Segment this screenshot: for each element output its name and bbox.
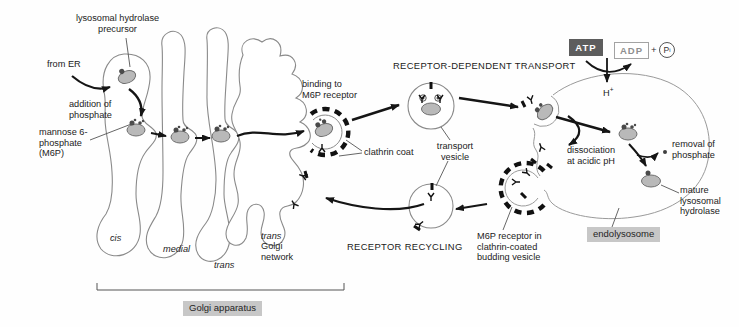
medial-cisterna-membrane: [146, 31, 197, 257]
arrow-vesicle-to-endolysosome: [459, 98, 518, 107]
receptor-icon: [527, 95, 535, 104]
label-medial: medial: [163, 244, 190, 255]
label-binding-m6p: binding to M6P receptor: [302, 79, 357, 100]
atp-badge: ATP: [569, 39, 603, 56]
plus-sign: +: [651, 44, 657, 55]
label-transport-vesicle: transport vesicle: [423, 141, 487, 162]
receptor-stub: [547, 164, 552, 168]
label-trans: trans: [214, 260, 234, 271]
arrow-atp-adp: [586, 61, 631, 72]
mature-hydrolase: [642, 171, 661, 188]
receptor-stub: [522, 101, 525, 107]
atp-label: ATP: [575, 42, 596, 53]
label-endolysosome: endolysosome: [587, 227, 660, 242]
golgi-bracket: [97, 283, 344, 290]
arrow-hydrolase-into-lumen: [556, 117, 610, 132]
label-cis: cis: [110, 233, 121, 244]
label-addition-phosphate: addition of phosphate: [69, 99, 112, 120]
arrow-bud-to-vesicle: [352, 105, 399, 120]
pi-subscript: i: [669, 47, 670, 53]
arrow-phosphate-removal: [637, 153, 658, 157]
proton-charge: +: [610, 86, 614, 93]
heading-receptor-recycling: RECEPTOR RECYCLING: [347, 242, 463, 253]
receptor-icon: [537, 142, 545, 152]
receptor-stub: [521, 193, 526, 198]
label-mature-hydrolase: mature lysosomal hydrolase: [680, 185, 721, 217]
adp-label: ADP: [620, 45, 643, 56]
label-lysosomal-precursor: lysosomal hydrolase precursor: [60, 13, 175, 34]
adp-badge: ADP: [614, 42, 649, 59]
label-trans-golgi-network: transGolgi network: [261, 220, 293, 262]
label-from-er: from ER: [47, 59, 81, 70]
endo-bud-membrane: [505, 170, 538, 206]
free-phosphate: [663, 150, 667, 154]
label-m6p: mannose 6- phosphate (M6P): [39, 127, 88, 159]
pi-badge: Pi: [659, 42, 675, 58]
label-clathrin-coat: clathrin coat: [364, 147, 414, 158]
receptor-icon: [512, 179, 520, 185]
hydrolase-fusing: [532, 99, 556, 123]
cis-cisterna-membrane: [97, 54, 156, 256]
receptor-stub: [305, 171, 307, 178]
hydrolase-in-endolysosome: [619, 123, 637, 140]
proton-label: H+: [603, 86, 613, 98]
label-removal-phosphate: removal of phosphate: [672, 139, 715, 160]
label-tgn-trans: trans: [261, 231, 293, 242]
trans-golgi-network-membrane: [226, 39, 310, 246]
pathway-arrows: [72, 58, 658, 209]
label-dissociation: dissociation at acidic pH: [567, 145, 615, 166]
heading-receptor-dependent-transport: RECEPTOR-DEPENDENT TRANSPORT: [393, 61, 576, 72]
label-golgi-apparatus: Golgi apparatus: [183, 301, 262, 316]
label-m6p-receptor-bud: M6P receptor in clathrin-coated budding …: [477, 231, 542, 263]
proton-h: H: [603, 88, 610, 98]
label-tgn-rest: Golgi network: [261, 241, 293, 262]
arrow-bud-to-recycling: [456, 204, 487, 209]
diagram-lysosome-pathway: lysosomal hydrolase precursor from ER ad…: [0, 0, 739, 327]
golgi-cisternae: [97, 28, 239, 262]
